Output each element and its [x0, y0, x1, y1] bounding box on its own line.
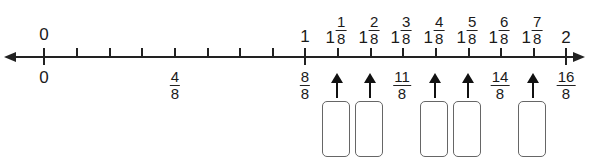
tick-6-8: [239, 48, 241, 57]
tick-14-8: [500, 48, 502, 57]
answer-box-10-8[interactable]: [355, 101, 383, 157]
tick-1: [304, 48, 306, 65]
bottom-fraction-14-8: 14 8: [491, 70, 510, 101]
mixed-number-1-5-8: 1 58: [457, 14, 478, 46]
top-label-2: 2: [561, 29, 570, 46]
up-arrow-icon: [527, 73, 539, 98]
tick-4-8: [174, 48, 176, 57]
mixed-number-1-4-8: 1 48: [424, 14, 445, 46]
top-label-0: 0: [39, 26, 48, 43]
tick-15-8: [533, 48, 535, 57]
tick-1-8: [76, 48, 78, 57]
top-label-1: 1: [300, 28, 309, 45]
tick-12-8: [435, 48, 437, 57]
answer-box-15-8[interactable]: [518, 101, 546, 157]
mixed-number-1-7-8: 1 78: [522, 14, 543, 46]
tick-3-8: [141, 48, 143, 57]
mixed-number-1-2-8: 1 28: [359, 14, 380, 46]
tick-7-8: [272, 48, 274, 57]
up-arrow-icon: [331, 73, 343, 98]
answer-box-12-8[interactable]: [420, 101, 448, 157]
up-arrow-icon: [364, 73, 376, 98]
tick-9-8: [337, 48, 339, 57]
tick-2: [565, 48, 567, 65]
bottom-fraction-4-8: 4 8: [170, 70, 180, 101]
number-line-diagram: 0 1 2 1 18 1 28 1 38 1 48 1 58 1 68 1 78…: [0, 0, 611, 167]
bottom-fraction-16-8: 16 8: [557, 70, 576, 101]
right-arrow-icon: [573, 52, 585, 62]
tick-11-8: [402, 48, 404, 57]
left-arrow-icon: [4, 52, 16, 62]
answer-box-13-8[interactable]: [453, 101, 481, 157]
tick-2-8: [109, 48, 111, 57]
number-line-axis: [10, 56, 578, 58]
up-arrow-icon: [429, 73, 441, 98]
mixed-number-1-6-8: 1 68: [489, 14, 510, 46]
tick-13-8: [468, 48, 470, 57]
tick-5-8: [207, 48, 209, 57]
bottom-label-0: 0: [39, 69, 48, 86]
tick-0: [43, 48, 45, 65]
bottom-fraction-11-8: 11 8: [393, 70, 411, 101]
up-arrow-icon: [462, 73, 474, 98]
tick-10-8: [370, 48, 372, 57]
bottom-fraction-8-8: 8 8: [300, 70, 310, 101]
mixed-number-1-3-8: 1 38: [391, 14, 412, 46]
answer-box-9-8[interactable]: [322, 101, 350, 157]
mixed-number-1-1-8: 1 18: [326, 14, 347, 46]
